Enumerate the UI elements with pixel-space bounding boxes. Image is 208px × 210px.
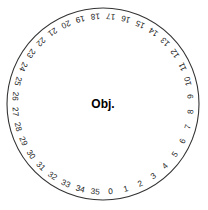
dial-tick-label-27: 27 <box>10 107 20 117</box>
dial-tick-label-17: 17 <box>105 11 115 21</box>
dial-tick-label-35: 35 <box>90 187 100 197</box>
dial-tick-label-26: 26 <box>10 91 20 101</box>
dial-svg: 0123456789101112131415161718192021222324… <box>0 0 208 210</box>
dial-tick-label-18: 18 <box>90 11 100 21</box>
center-label-text: Obj. <box>91 97 114 111</box>
rotation-dial-diagram: 0123456789101112131415161718192021222324… <box>0 0 208 210</box>
